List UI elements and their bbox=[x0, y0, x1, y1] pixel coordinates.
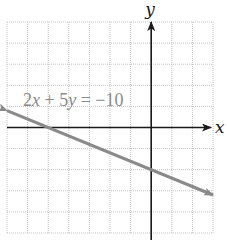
coordinate-plane: x y 2x + 5y = −10 bbox=[0, 0, 227, 245]
eq-coef-x: 2 bbox=[23, 90, 32, 110]
x-axis-label: x bbox=[215, 117, 225, 137]
eq-rhs: = −10 bbox=[76, 90, 123, 110]
eq-coef-y: + 5 bbox=[40, 90, 68, 110]
eq-var-y: y bbox=[66, 90, 76, 110]
equation-label: 2x + 5y = −10 bbox=[23, 90, 123, 110]
y-axis-label: y bbox=[144, 0, 155, 19]
eq-var-x: x bbox=[31, 90, 40, 110]
